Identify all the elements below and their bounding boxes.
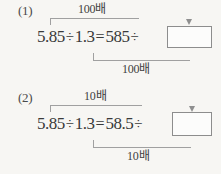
equation-2: 5.85 ÷ 1.3 = 58.5 ÷ (37, 112, 143, 136)
bracket-horizontal-line (93, 60, 190, 61)
equation-1: 5.85 ÷ 1.3 = 585 ÷ (37, 25, 139, 49)
bottom-multiplier-bracket (93, 139, 191, 148)
bottom-multiplier-label: 10배 (127, 150, 149, 162)
bottom-multiplier-label: 100배 (122, 63, 150, 75)
problem-number-label: (2) (18, 91, 32, 104)
scaled-dividend: 585 (105, 25, 129, 49)
equals-sign: = (95, 112, 106, 136)
down-arrow-icon (186, 19, 192, 25)
division-sign: ÷ (65, 25, 75, 49)
bracket-left-tick (50, 105, 51, 112)
divisor: 1.3 (75, 112, 95, 136)
division-sign-2: ÷ (129, 25, 139, 49)
divisor: 1.3 (75, 25, 95, 49)
problem-2: (2) 10배 5.85 ÷ 1.3 = 58.5 ÷ 10배 (0, 87, 221, 174)
problem-1: (1) 100배 5.85 ÷ 1.3 = 585 ÷ 100배 (0, 0, 221, 87)
problem-number-label: (1) (18, 4, 32, 17)
bracket-left-tick (93, 53, 94, 61)
bracket-horizontal-line (50, 18, 139, 19)
bottom-multiplier-bracket (93, 52, 190, 61)
equals-sign: = (95, 25, 106, 49)
scaled-dividend: 58.5 (105, 112, 133, 136)
dividend: 5.85 (37, 25, 65, 49)
top-multiplier-label: 10배 (84, 90, 106, 102)
division-sign: ÷ (65, 112, 75, 136)
bracket-horizontal-line (93, 147, 191, 148)
answer-box[interactable] (172, 112, 212, 136)
bracket-left-tick (93, 140, 94, 148)
bracket-horizontal-line (50, 105, 142, 106)
top-multiplier-label: 100배 (78, 3, 106, 15)
answer-box[interactable] (167, 26, 212, 48)
math-worksheet: (1) 100배 5.85 ÷ 1.3 = 585 ÷ 100배 (2) (0, 0, 221, 174)
division-sign-2: ÷ (133, 112, 143, 136)
bracket-left-tick (50, 18, 51, 25)
dividend: 5.85 (37, 112, 65, 136)
